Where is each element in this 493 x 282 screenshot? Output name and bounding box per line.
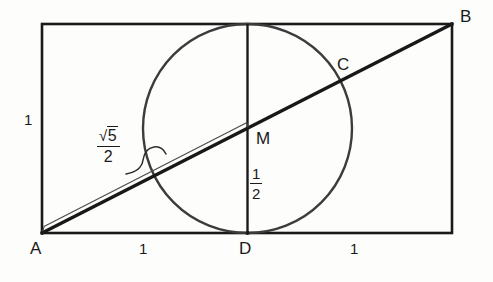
fraction-bar [97,146,120,147]
length-label-bottom-left: 1 [139,241,147,256]
fraction-bar [250,183,262,184]
vertex-label-d: D [239,240,251,257]
one-half-numerator: 1 [250,166,262,182]
length-label-left-side: 1 [24,112,32,127]
vertex-label-m: M [256,130,270,147]
root-five-radicand: 5 [107,126,118,144]
vertex-dot-b [450,22,454,26]
one-half-denominator: 2 [250,185,262,201]
leader-brace-icon [126,147,166,174]
vertex-dot-a [40,231,44,235]
vertex-label-c: C [337,56,349,73]
root-five-denominator: 2 [97,148,120,165]
vertex-label-a: A [30,240,41,257]
geometry-diagram-canvas: A B C D M 1 1 1 √5 2 1 2 [0,0,493,282]
vertex-label-b: B [460,8,471,25]
length-label-one-half: 1 2 [250,166,262,201]
radical-sign-icon: √ [99,127,107,144]
root-five-numerator: √5 [97,128,120,145]
vertex-dot-d [246,231,250,235]
length-label-bottom-right: 1 [350,241,358,256]
measure-strip-thin-line [44,123,247,227]
length-label-root-five-over-two: √5 2 [97,128,120,165]
